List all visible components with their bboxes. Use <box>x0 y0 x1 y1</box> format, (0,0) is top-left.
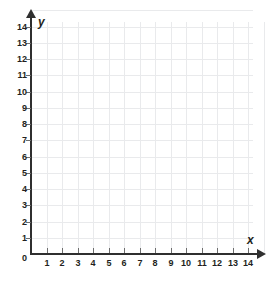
gridline-vertical <box>186 22 187 254</box>
gridline-vertical <box>155 22 156 254</box>
y-axis-label: y <box>38 16 45 28</box>
x-axis-tick-label: 3 <box>75 258 80 268</box>
x-axis-tick <box>62 248 63 253</box>
x-axis-tick-label: 6 <box>121 258 126 268</box>
gridline-horizontal <box>31 59 253 60</box>
y-axis-tick-label: 3 <box>5 200 27 210</box>
gridline-horizontal <box>31 173 253 174</box>
y-axis-tick-label: 6 <box>5 152 27 162</box>
x-axis-tick <box>202 248 203 253</box>
x-axis-tick <box>248 248 249 253</box>
gridline-vertical <box>217 22 218 254</box>
y-axis-tick-label: 11 <box>5 70 27 80</box>
gridline-horizontal <box>31 238 253 239</box>
y-axis-tick-label: 4 <box>5 184 27 194</box>
gridline-vertical <box>171 22 172 254</box>
gridline-vertical <box>109 22 110 254</box>
x-axis-tick <box>93 248 94 253</box>
x-axis-tick <box>78 248 79 253</box>
y-axis-tick-label: 5 <box>5 168 27 178</box>
x-axis-tick <box>217 248 218 253</box>
gridline-vertical <box>78 22 79 254</box>
x-axis-tick-label: 9 <box>168 258 173 268</box>
x-axis-tick-label: 4 <box>90 258 95 268</box>
x-axis-tick-label: 14 <box>243 258 253 268</box>
gridline-horizontal <box>31 92 253 93</box>
origin-label: 0 <box>5 253 27 263</box>
x-axis-tick <box>47 248 48 253</box>
y-axis-tick-label: 13 <box>5 38 27 48</box>
x-axis-line <box>31 253 259 255</box>
gridline-vertical <box>124 22 125 254</box>
gridline-horizontal <box>31 205 253 206</box>
gridline-vertical <box>202 22 203 254</box>
x-axis-tick-label: 10 <box>181 258 191 268</box>
x-axis-tick <box>124 248 125 253</box>
y-axis-tick-label: 9 <box>5 103 27 113</box>
grid-lines <box>0 0 275 286</box>
gridline-horizontal <box>31 27 253 28</box>
gridline-horizontal <box>31 124 253 125</box>
x-axis-tick <box>186 248 187 253</box>
x-axis-tick <box>140 248 141 253</box>
right-arrow-icon <box>257 249 266 259</box>
x-axis-tick <box>109 248 110 253</box>
gridline-vertical <box>93 22 94 254</box>
y-axis-tick-label: 12 <box>5 54 27 64</box>
gridline-horizontal <box>31 222 253 223</box>
x-axis-tick-label: 11 <box>197 258 207 268</box>
gridline-horizontal <box>31 43 253 44</box>
up-arrow-icon <box>26 9 36 18</box>
gridline-horizontal <box>31 10 253 11</box>
gridline-horizontal <box>31 75 253 76</box>
x-axis-tick <box>233 248 234 253</box>
gridline-vertical <box>47 22 48 254</box>
gridline-vertical <box>140 22 141 254</box>
gridline-vertical <box>62 22 63 254</box>
x-axis-tick-label: 8 <box>152 258 157 268</box>
y-axis-tick-label: 14 <box>5 22 27 32</box>
coordinate-grid-figure: 12345678910111213141234567891011121314 0… <box>0 0 275 286</box>
y-axis-tick-label: 1 <box>5 233 27 243</box>
gridline-horizontal <box>31 140 253 141</box>
x-axis-tick-label: 7 <box>137 258 142 268</box>
gridline-vertical <box>248 22 249 254</box>
gridline-vertical <box>233 22 234 254</box>
x-axis-tick-label: 12 <box>212 258 222 268</box>
x-axis-tick-label: 13 <box>228 258 238 268</box>
x-axis-label: x <box>247 234 254 246</box>
x-axis-tick <box>155 248 156 253</box>
y-axis-tick-label: 10 <box>5 87 27 97</box>
gridline-horizontal <box>31 189 253 190</box>
x-axis-tick-label: 1 <box>44 258 49 268</box>
x-axis-tick-label: 2 <box>59 258 64 268</box>
gridline-horizontal <box>31 108 253 109</box>
y-axis-tick-label: 8 <box>5 119 27 129</box>
y-axis-tick-label: 2 <box>5 217 27 227</box>
y-axis-line <box>30 16 32 255</box>
gridline-horizontal <box>31 157 253 158</box>
gridline-vertical <box>264 22 265 254</box>
x-axis-tick <box>171 248 172 253</box>
y-axis-tick-label: 7 <box>5 135 27 145</box>
x-axis-tick-label: 5 <box>106 258 111 268</box>
